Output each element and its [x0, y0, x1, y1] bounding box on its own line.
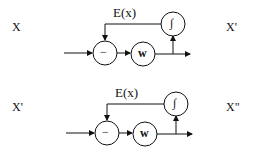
input-label: X' [12, 101, 23, 113]
subtract-node-symbol: − [102, 126, 109, 138]
integral-node-symbol: ∫ [170, 17, 173, 29]
weight-node-symbol: w [140, 127, 149, 139]
integral-node-symbol: ∫ [173, 97, 176, 109]
feedback-label: E(x) [115, 87, 138, 99]
output-label: X' [226, 21, 237, 33]
subtract-node-symbol: − [100, 46, 107, 58]
feedback-label: E(x) [113, 7, 136, 19]
block-row-1: X X' E(x) − w ∫ [0, 0, 254, 80]
input-label: X [12, 21, 21, 33]
block-row-2: X' X" E(x) − w ∫ [0, 80, 254, 159]
output-label: X" [226, 101, 240, 113]
weight-node-symbol: w [138, 47, 147, 59]
